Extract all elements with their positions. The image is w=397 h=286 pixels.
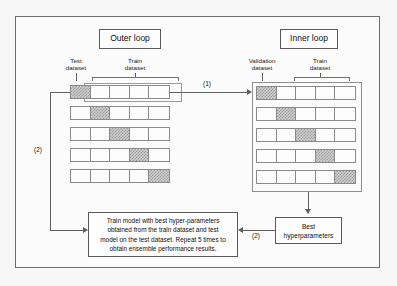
table-row xyxy=(70,169,170,183)
fold-cell xyxy=(277,129,297,141)
table-row xyxy=(70,127,170,141)
fold-cell xyxy=(335,150,355,162)
arrow-inner-to-besthp-line xyxy=(308,192,309,209)
fold-cell xyxy=(257,150,277,162)
fold-cell-heldout xyxy=(71,86,91,98)
inner-loop-chip-label: Inner loop xyxy=(290,33,328,43)
fold-cell xyxy=(71,170,91,182)
arrow-step2-right-label: (2) xyxy=(252,233,260,239)
fold-cell xyxy=(91,128,111,140)
outer-test-dataset-caption: Test dataset xyxy=(56,57,96,72)
diagram-canvas: Outer loop Inner loop Test dataset Train… xyxy=(0,0,397,286)
fold-cell-heldout xyxy=(335,171,355,183)
fold-cell xyxy=(91,170,111,182)
outer-train-dataset-caption-line1: Train xyxy=(105,57,165,64)
outer-loop-chip-label: Outer loop xyxy=(110,33,150,43)
bottom-description-line4: obtain ensemble performance results. xyxy=(100,244,225,253)
fold-cell xyxy=(335,108,355,120)
fold-cell xyxy=(296,108,316,120)
fold-cell xyxy=(110,86,130,98)
bottom-description-box: Train model with best hyper-parameters o… xyxy=(88,212,238,257)
fold-cell xyxy=(257,171,277,183)
fold-cell xyxy=(149,128,169,140)
fold-cell xyxy=(149,149,169,161)
fold-cell-heldout xyxy=(91,107,111,119)
fold-cell xyxy=(71,107,91,119)
table-row xyxy=(256,149,356,163)
inner-validation-dataset-caption: Validation dataset xyxy=(237,57,287,72)
fold-cell xyxy=(257,108,277,120)
outer-train-brace xyxy=(92,77,179,81)
fold-cell xyxy=(130,170,150,182)
table-row xyxy=(70,106,170,120)
fold-cell xyxy=(130,86,150,98)
fold-cell xyxy=(110,107,130,119)
bottom-description-line3: model on the test dataset. Repeat 5 time… xyxy=(100,235,225,244)
fold-cell xyxy=(71,149,91,161)
table-row xyxy=(256,170,356,184)
table-row xyxy=(256,107,356,121)
fold-cell xyxy=(316,87,336,99)
arrow-step2-left-top-segment xyxy=(50,92,70,93)
best-hyperparameters-box: Best hyperparameters xyxy=(275,217,342,244)
inner-validation-dataset-caption-line1: Validation xyxy=(237,57,287,64)
fold-cell xyxy=(130,128,150,140)
arrow-step2-left-label: (2) xyxy=(34,147,42,153)
fold-cell-heldout xyxy=(296,129,316,141)
arrow-step2-left-bottom-segment xyxy=(50,230,83,231)
arrow-inner-to-besthp-head-icon xyxy=(305,209,311,214)
bottom-description-text: Train model with best hyper-parameters o… xyxy=(96,216,229,253)
fold-cell xyxy=(91,149,111,161)
outer-train-dataset-caption: Train dataset xyxy=(105,57,165,72)
inner-train-dataset-caption-line1: Train xyxy=(290,57,350,64)
fold-cell-heldout xyxy=(130,149,150,161)
fold-cell xyxy=(296,150,316,162)
table-row xyxy=(256,128,356,142)
fold-cell xyxy=(316,108,336,120)
outer-test-dataset-caption-line1: Test xyxy=(56,57,96,64)
fold-cell xyxy=(110,170,130,182)
best-hyperparameters-line1: Best xyxy=(284,222,334,231)
fold-cell xyxy=(149,86,169,98)
outer-test-dataset-pointer xyxy=(76,73,77,81)
fold-cell xyxy=(130,107,150,119)
fold-cell xyxy=(110,149,130,161)
arrow-step1-line xyxy=(170,92,247,93)
inner-train-dataset-caption: Train dataset xyxy=(290,57,350,72)
best-hyperparameters-text: Best hyperparameters xyxy=(284,222,334,240)
fold-cell xyxy=(149,107,169,119)
inner-validation-dataset-caption-line2: dataset xyxy=(237,64,287,71)
fold-cell-heldout xyxy=(277,108,297,120)
fold-cell xyxy=(257,129,277,141)
fold-cell xyxy=(91,86,111,98)
inner-loop-chip: Inner loop xyxy=(280,29,338,49)
outer-train-dataset-caption-line2: dataset xyxy=(105,64,165,71)
fold-cell xyxy=(335,129,355,141)
outer-loop-chip: Outer loop xyxy=(99,29,161,49)
table-row xyxy=(256,86,356,100)
table-row xyxy=(70,148,170,162)
fold-cell-heldout xyxy=(110,128,130,140)
fold-cell xyxy=(335,87,355,99)
inner-train-dataset-caption-line2: dataset xyxy=(290,64,350,71)
fold-cell-heldout xyxy=(149,170,169,182)
inner-train-brace xyxy=(294,77,350,81)
outer-test-dataset-caption-line2: dataset xyxy=(56,64,96,71)
inner-validation-dataset-pointer xyxy=(262,73,263,81)
fold-cell xyxy=(71,128,91,140)
bottom-description-line1: Train model with best hyper-parameters xyxy=(100,216,225,225)
table-row xyxy=(70,85,170,99)
arrow-step1-label: (1) xyxy=(203,81,211,87)
fold-cell-heldout xyxy=(316,150,336,162)
fold-cell xyxy=(277,87,297,99)
arrow-step2-right-line xyxy=(243,230,275,231)
fold-cell xyxy=(296,171,316,183)
fold-cell-heldout xyxy=(257,87,277,99)
best-hyperparameters-line2: hyperparameters xyxy=(284,231,334,240)
arrow-step2-right-head-icon xyxy=(238,227,243,233)
fold-cell xyxy=(316,129,336,141)
arrow-step2-left-vertical-segment xyxy=(50,92,51,230)
fold-cell xyxy=(296,87,316,99)
fold-cell xyxy=(277,150,297,162)
fold-cell xyxy=(277,171,297,183)
